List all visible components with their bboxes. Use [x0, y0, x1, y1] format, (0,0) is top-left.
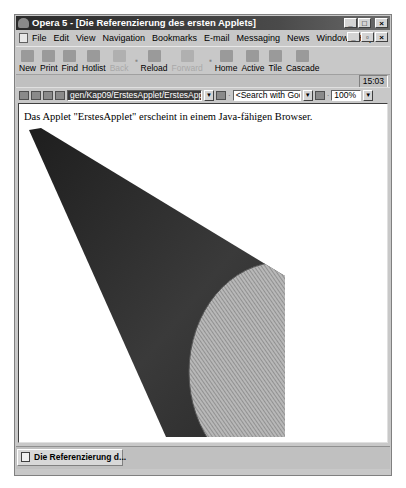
- menu-edit[interactable]: Edit: [54, 33, 70, 43]
- menu-news[interactable]: News: [287, 33, 310, 43]
- mdi-close-button[interactable]: ×: [375, 32, 388, 42]
- document-icon[interactable]: [19, 33, 28, 43]
- search-input[interactable]: <Search with Google>: [233, 90, 301, 101]
- tab-bar: Die Referenzierung d...: [16, 446, 390, 469]
- reload-icon: [148, 50, 161, 62]
- menu-navigation[interactable]: Navigation: [102, 33, 145, 43]
- hotlist-button[interactable]: Hotlist: [82, 50, 106, 73]
- menu-bar: File Edit View Navigation Bookmarks E-ma…: [16, 31, 390, 45]
- dropdown-dot-icon[interactable]: ▪: [133, 56, 141, 65]
- new-page-icon: [21, 50, 34, 62]
- home-button[interactable]: Home: [215, 50, 238, 73]
- address-bar: gen/Kap09/ErstesApplet/ErstesApplet.html…: [16, 87, 390, 102]
- forward-arrow-icon: [181, 50, 194, 62]
- back-button[interactable]: Back: [110, 50, 129, 73]
- zoom-select[interactable]: 100%: [331, 90, 361, 101]
- tile-icon: [269, 50, 282, 62]
- main-toolbar: New Print Find Hotlist Back ▪ Reload For…: [16, 46, 390, 73]
- window-icon[interactable]: [31, 91, 41, 100]
- zoom-dropdown-button[interactable]: ▼: [363, 90, 373, 101]
- menu-email[interactable]: E-mail: [204, 33, 230, 43]
- menu-file[interactable]: File: [32, 33, 47, 43]
- java-applet-cone-drawing: [19, 104, 388, 443]
- menu-window[interactable]: Window: [317, 33, 349, 43]
- forward-button[interactable]: Forward: [172, 50, 203, 73]
- mdi-restore-button[interactable]: ▫: [361, 32, 374, 42]
- maximize-button[interactable]: □: [358, 18, 371, 28]
- title-bar[interactable]: Opera 5 - [Die Referenzierung des ersten…: [16, 16, 390, 30]
- new-button[interactable]: New: [19, 50, 36, 73]
- menu-bookmarks[interactable]: Bookmarks: [152, 33, 197, 43]
- active-button[interactable]: Active: [241, 50, 264, 73]
- url-input[interactable]: gen/Kap09/ErstesApplet/ErstesApplet.html: [67, 90, 202, 101]
- menu-view[interactable]: View: [76, 33, 95, 43]
- print-button[interactable]: Print: [40, 50, 57, 73]
- menu-messaging[interactable]: Messaging: [236, 33, 280, 43]
- back-arrow-icon: [113, 50, 126, 62]
- mdi-minimize-button[interactable]: _: [347, 32, 360, 42]
- progress-bar: 15:03: [16, 74, 390, 87]
- page-icon: [21, 452, 30, 462]
- tile-button[interactable]: Tile: [269, 50, 282, 73]
- dropdown-dot-icon[interactable]: ▪: [207, 56, 215, 65]
- page-icon[interactable]: [43, 91, 53, 100]
- page-content: Das Applet "ErstesApplet" erscheint in e…: [18, 103, 388, 443]
- printer-icon: [42, 50, 55, 62]
- window-title: Opera 5 - [Die Referenzierung des ersten…: [32, 17, 256, 28]
- active-icon: [246, 50, 259, 62]
- separator-dot: ·: [228, 91, 231, 100]
- close-button[interactable]: ×: [375, 18, 388, 28]
- tab-page[interactable]: Die Referenzierung d...: [17, 449, 123, 466]
- search-go-icon[interactable]: [315, 91, 325, 100]
- url-dropdown-button[interactable]: ▼: [204, 90, 214, 101]
- minimize-button[interactable]: _: [344, 18, 357, 28]
- search-dropdown-button[interactable]: ▼: [303, 90, 313, 101]
- home-icon: [220, 50, 233, 62]
- separator-dot: ·: [327, 91, 330, 100]
- find-button[interactable]: Find: [62, 50, 79, 73]
- security-lock-icon[interactable]: [19, 91, 29, 100]
- opera-app-icon: [18, 18, 29, 28]
- cascade-icon: [296, 50, 309, 62]
- go-icon[interactable]: [216, 91, 226, 100]
- reload-button[interactable]: Reload: [141, 50, 168, 73]
- browser-window: Opera 5 - [Die Referenzierung des ersten…: [14, 14, 392, 476]
- cascade-button[interactable]: Cascade: [286, 50, 320, 73]
- users-icon[interactable]: [55, 91, 65, 100]
- hotlist-icon: [87, 50, 100, 62]
- find-icon: [63, 50, 76, 62]
